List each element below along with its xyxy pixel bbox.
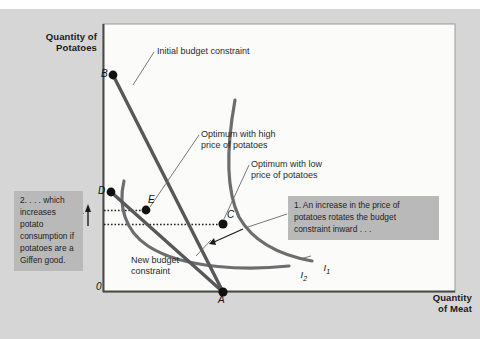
curve-label-i2: I2: [290, 258, 307, 295]
data-point-D: [107, 188, 116, 197]
annotation-new-budget-constraint: New budgetconstraint: [131, 255, 179, 276]
annotation-optimum-low-price: Optimum with lowprice of potatoes: [251, 159, 322, 180]
figure-root: Quantity ofPotatoes Quantityof Meat B D …: [0, 0, 480, 339]
point-label-d: D: [98, 185, 105, 197]
point-label-e: E: [148, 194, 155, 206]
origin-label: 0: [96, 281, 102, 293]
data-point-B: [109, 71, 118, 80]
point-label-b: B: [101, 68, 108, 80]
data-point-E: [142, 206, 151, 215]
curve-label-i1-subscript: 1: [326, 268, 330, 275]
callout-price-increase: 1. An increase in the price of potatoes …: [288, 196, 439, 240]
y-axis-title: Quantity ofPotatoes: [29, 31, 97, 53]
point-label-c: C: [227, 209, 234, 221]
consumption-increase-arrow-head: [85, 204, 91, 212]
annotation-initial-budget-constraint: Initial budget constraint: [157, 46, 250, 57]
point-label-a: A: [218, 294, 225, 306]
curve-label-i1: I1: [313, 251, 330, 288]
annotation-optimum-high-price: Optimum with highprice of potatoes: [201, 129, 276, 150]
x-axis-title: Quantityof Meat: [408, 292, 472, 314]
curve-label-i2-subscript: 2: [303, 275, 307, 282]
callout-giffen-good: 2. . . . which increases potato consumpt…: [14, 191, 83, 271]
